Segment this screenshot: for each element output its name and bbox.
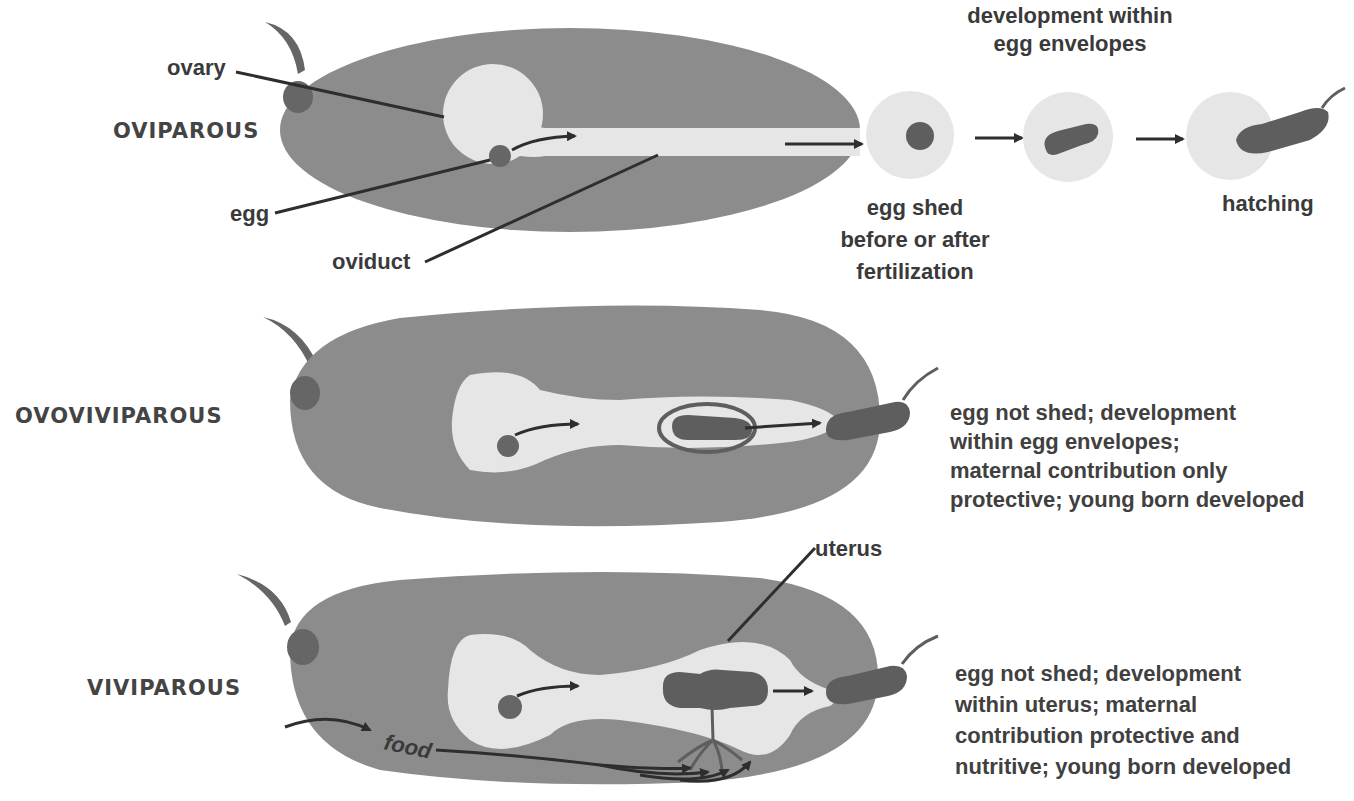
tail-icon: [265, 22, 305, 74]
egg-shape: [497, 435, 519, 457]
egg-shape: [498, 695, 522, 719]
viviparous-animal: [237, 548, 938, 784]
description-line: within egg envelopes;: [950, 427, 1304, 456]
description-line: contribution protective and: [955, 720, 1291, 751]
caption-egg-shed: egg shed before or after fertilization: [820, 192, 1010, 288]
caption-hatching: hatching: [1222, 190, 1314, 218]
head-spot: [287, 629, 319, 665]
egg-shape: [489, 145, 511, 167]
embryo-icon: [663, 670, 768, 711]
description-ovoviviparous: egg not shed; development within egg env…: [950, 398, 1304, 514]
oviparous-stages: [785, 88, 1345, 182]
description-line: egg not shed; development: [950, 398, 1304, 427]
heading-ovoviviparous: OVOVIVIPAROUS: [15, 402, 223, 430]
description-line: maternal contribution only: [950, 456, 1304, 485]
heading-viviparous: VIVIPAROUS: [87, 674, 241, 702]
description-line: egg not shed; development: [955, 658, 1291, 689]
description-line: protective; young born developed: [950, 485, 1304, 514]
oviduct-shape: [520, 128, 860, 156]
caption-line: fertilization: [820, 256, 1010, 288]
tail-icon: [237, 574, 291, 626]
head-spot: [290, 376, 320, 410]
caption-line: development within: [960, 2, 1180, 30]
description-viviparous: egg not shed; development within uterus;…: [955, 658, 1291, 782]
ovoviviparous-animal: [263, 306, 938, 527]
description-line: within uterus; maternal: [955, 689, 1291, 720]
oviparous-animal: [236, 22, 860, 262]
caption-line: before or after: [820, 224, 1010, 256]
description-line: nutritive; young born developed: [955, 751, 1291, 782]
label-oviduct: oviduct: [332, 248, 410, 276]
label-uterus: uterus: [815, 535, 882, 563]
label-egg: egg: [230, 200, 269, 228]
caption-line: egg envelopes: [960, 30, 1180, 58]
caption-development-within-envelopes: development within egg envelopes: [960, 2, 1180, 58]
caption-line: egg shed: [820, 192, 1010, 224]
label-ovary: ovary: [167, 54, 226, 82]
heading-oviparous: OVIPAROUS: [113, 117, 259, 145]
